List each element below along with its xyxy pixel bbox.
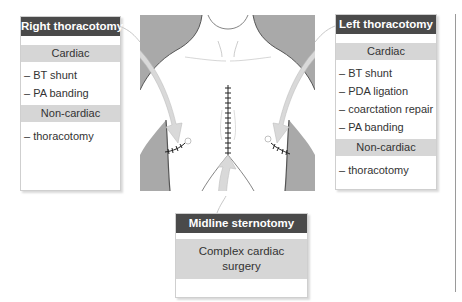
list-item: – PA banding xyxy=(24,84,120,102)
midline-sternotomy-title: Midline sternotomy xyxy=(176,214,307,233)
right-noncardiac-header: Non-cardiac xyxy=(21,105,120,122)
right-cardiac-header: Cardiac xyxy=(21,45,120,62)
list-item: – BT shunt xyxy=(24,66,120,84)
midline-sternotomy-content: Complex cardiac surgery xyxy=(176,239,307,279)
left-thoracotomy-box: Left thoracotomy Cardiac – BT shunt – PD… xyxy=(335,14,437,190)
list-item: – PDA ligation xyxy=(339,82,436,100)
list-item: – PA banding xyxy=(339,118,436,136)
vertical-divider xyxy=(455,14,456,292)
list-item: – thoracotomy xyxy=(339,161,436,179)
list-item: – thoracotomy xyxy=(24,127,120,145)
list-item: – BT shunt xyxy=(339,64,436,82)
midline-sternotomy-box: Midline sternotomy Complex cardiac surge… xyxy=(175,213,308,298)
right-thoracotomy-title: Right thoracotomy xyxy=(21,17,120,36)
left-cardiac-header: Cardiac xyxy=(336,43,436,60)
right-thoracotomy-box: Right thoracotomy Cardiac – BT shunt – P… xyxy=(20,16,121,191)
left-thoracotomy-title: Left thoracotomy xyxy=(336,15,436,34)
chest-illustration xyxy=(140,15,315,191)
list-item: – coarctation repair xyxy=(339,100,436,118)
left-noncardiac-header: Non-cardiac xyxy=(336,139,436,156)
